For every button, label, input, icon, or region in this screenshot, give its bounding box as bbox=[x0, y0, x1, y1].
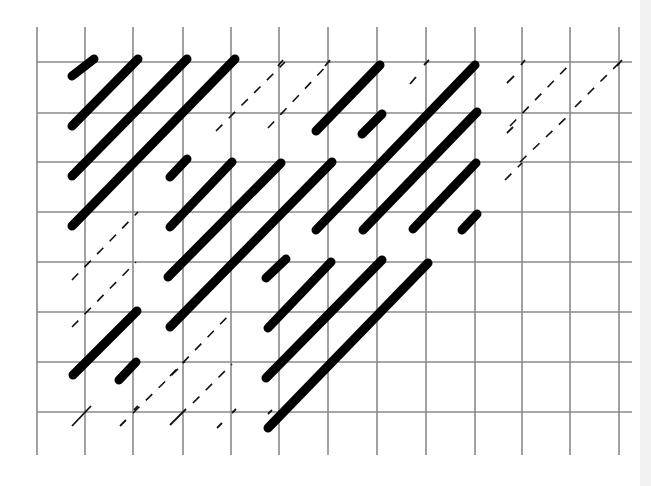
thick-diagonal-stroke bbox=[266, 260, 382, 378]
dashed-diagonal-stroke bbox=[268, 62, 330, 128]
thick-diagonal-stroke bbox=[72, 59, 187, 176]
thick-diagonal-stroke bbox=[362, 114, 382, 134]
dashed-strokes bbox=[72, 62, 620, 413]
short-tick-mark bbox=[507, 76, 514, 83]
thick-diagonal-stroke bbox=[168, 163, 281, 277]
short-tick-mark bbox=[217, 423, 222, 428]
dashed-diagonal-stroke bbox=[505, 163, 522, 180]
dashed-diagonal-stroke bbox=[510, 62, 572, 126]
short-tick-marks bbox=[72, 60, 622, 428]
dashed-diagonal-stroke bbox=[520, 112, 572, 162]
thick-diagonal-stroke bbox=[72, 59, 235, 226]
dashed-diagonal-stroke bbox=[575, 62, 620, 107]
grid-lines bbox=[37, 27, 632, 455]
thick-diagonal-stroke bbox=[316, 65, 475, 230]
right-edge-shading bbox=[640, 0, 651, 486]
dashed-diagonal-stroke bbox=[193, 364, 232, 403]
short-tick-mark bbox=[120, 420, 126, 426]
stroke-grid-diagram bbox=[0, 0, 651, 486]
short-tick-mark bbox=[410, 77, 416, 84]
short-tick-mark bbox=[72, 406, 91, 426]
dashed-diagonal-stroke bbox=[133, 362, 185, 413]
short-tick-mark bbox=[507, 127, 513, 133]
